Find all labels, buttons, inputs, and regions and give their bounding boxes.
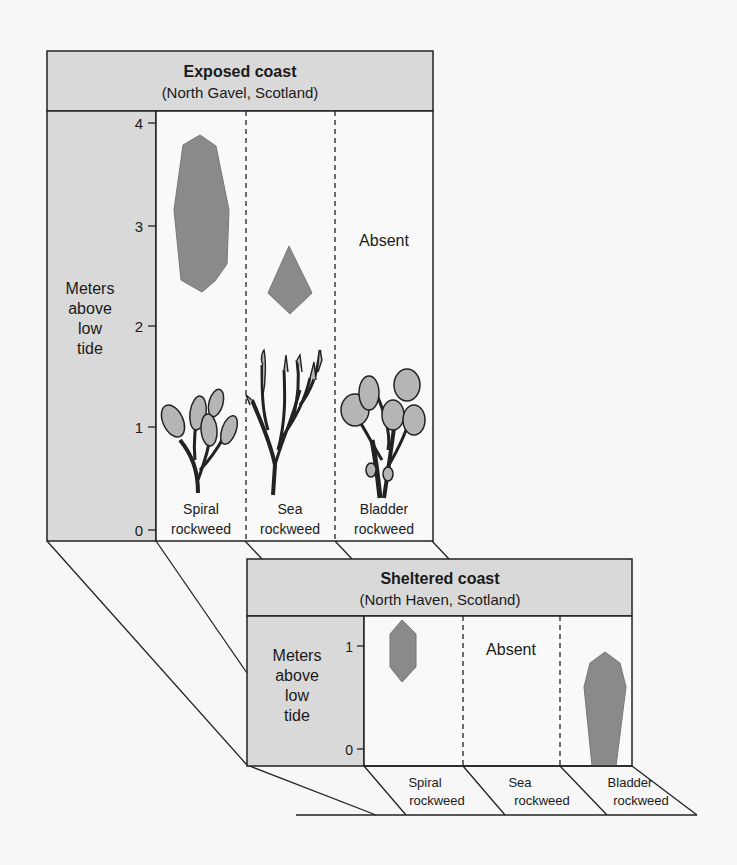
tick-label: 0 [135, 522, 143, 539]
exposed-header [47, 51, 433, 111]
tick-label: 1 [345, 639, 353, 655]
species-label: rockweed [260, 521, 320, 537]
species-label: Bladder [608, 775, 653, 790]
species-label: rockweed [514, 793, 570, 808]
species-label: rockweed [171, 521, 231, 537]
species-label: Spiral [408, 775, 441, 790]
species-label: Bladder [360, 501, 409, 517]
sheltered-subtitle: (North Haven, Scotland) [360, 591, 521, 608]
species-label: rockweed [354, 521, 414, 537]
exposed-coast-panel: Exposed coast (North Gavel, Scotland) Me… [47, 51, 433, 541]
tick-label: 1 [135, 419, 143, 436]
axis-label-line: low [285, 687, 309, 704]
exposed-subtitle: (North Gavel, Scotland) [162, 84, 319, 101]
sheltered-coast-panel: Sheltered coast (North Haven, Scotland) … [247, 559, 697, 815]
axis-label-line: low [78, 320, 102, 337]
axis-label-line: tide [284, 707, 310, 724]
axis-label-line: Meters [66, 280, 115, 297]
axis-label-line: above [68, 300, 112, 317]
tick-label: 3 [135, 218, 143, 235]
sea-absent-label: Absent [486, 641, 536, 658]
tick-label: 2 [135, 318, 143, 335]
species-label: Spiral [183, 501, 219, 517]
species-label: rockweed [613, 793, 669, 808]
axis-label-line: above [275, 667, 319, 684]
species-label: rockweed [409, 793, 465, 808]
rockweed-zonation-diagram: Exposed coast (North Gavel, Scotland) Me… [0, 0, 737, 865]
exposed-title: Exposed coast [184, 63, 298, 80]
tick-label: 4 [135, 115, 143, 132]
species-label: Sea [508, 775, 532, 790]
axis-label-line: tide [77, 340, 103, 357]
bladder-absent-label: Absent [359, 232, 409, 249]
axis-label-line: Meters [273, 647, 322, 664]
tick-label: 0 [345, 742, 353, 758]
sheltered-title: Sheltered coast [380, 570, 500, 587]
species-label: Sea [278, 501, 303, 517]
